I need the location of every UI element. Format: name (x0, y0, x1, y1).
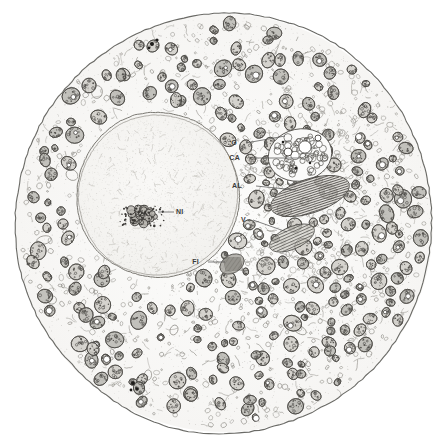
label-ca: CA (229, 154, 240, 161)
label-fi: FI (192, 258, 199, 265)
label-g: G (231, 139, 237, 146)
label-v: V (241, 216, 246, 223)
micrograph-figure: GCAALVFINI (0, 0, 445, 445)
label-al: AL (232, 182, 242, 189)
nucleus (76, 112, 240, 277)
label-ni: NI (176, 208, 184, 215)
cell-diagram-canvas: GCAALVFINI (0, 0, 445, 445)
